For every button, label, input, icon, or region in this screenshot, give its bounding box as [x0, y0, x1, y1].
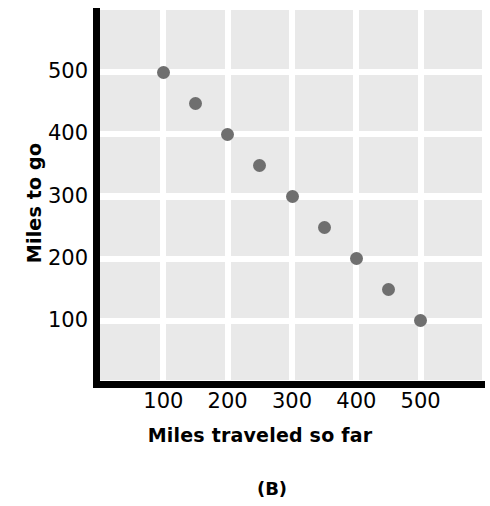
grid-cell [231, 200, 289, 256]
data-point [221, 128, 234, 141]
grid-cell [231, 262, 289, 318]
grid-cell [166, 10, 224, 69]
y-tick-label: 200 [32, 248, 88, 269]
grid-cell [359, 10, 417, 69]
grid-cell [424, 75, 482, 131]
grid-cell [166, 262, 224, 318]
grid-cell [359, 200, 417, 256]
y-axis-line [93, 8, 100, 388]
grid-cell [99, 324, 160, 380]
grid-cell [99, 262, 160, 318]
data-point [318, 221, 331, 234]
grid-cell [359, 137, 417, 193]
x-tick-label: 400 [321, 391, 391, 412]
grid-cell [166, 324, 224, 380]
grid-cell [424, 137, 482, 193]
plot-canvas [99, 10, 485, 383]
data-point [350, 252, 363, 265]
data-point [189, 97, 202, 110]
grid-cell [99, 10, 160, 69]
scatter-plot-figure: Miles to go 500400300200100 100200300400… [0, 0, 490, 506]
plot-area [93, 10, 485, 385]
grid-cell [295, 10, 353, 69]
y-tick-label: 100 [32, 310, 88, 331]
x-axis-line [93, 381, 485, 388]
y-tick-label: 400 [32, 123, 88, 144]
grid-cell [99, 200, 160, 256]
grid-cell [99, 75, 160, 131]
figure-caption: (B) [172, 478, 372, 499]
x-tick-label: 100 [128, 391, 198, 412]
grid-cell [295, 262, 353, 318]
grid-cell [231, 75, 289, 131]
y-tick-label: 300 [32, 186, 88, 207]
grid-cell [231, 10, 289, 69]
grid-cell [359, 75, 417, 131]
x-tick-label: 200 [193, 391, 263, 412]
grid-cell [295, 75, 353, 131]
grid-cell [99, 137, 160, 193]
grid-cell [359, 324, 417, 380]
data-point [157, 66, 170, 79]
grid-cell [295, 137, 353, 193]
x-tick-label: 300 [257, 391, 327, 412]
grid-cell [166, 200, 224, 256]
data-point [286, 190, 299, 203]
grid-cell [424, 324, 482, 380]
y-tick-label: 500 [32, 61, 88, 82]
grid-cell [295, 324, 353, 380]
x-tick-label: 500 [386, 391, 456, 412]
grid-cell [231, 324, 289, 380]
x-axis-label: Miles traveled so far [60, 424, 460, 446]
x-axis-tick-labels: 100200300400500 [93, 391, 485, 421]
grid-cell [424, 200, 482, 256]
grid-cell [424, 10, 482, 69]
grid-cell [424, 262, 482, 318]
grid-cell [166, 137, 224, 193]
